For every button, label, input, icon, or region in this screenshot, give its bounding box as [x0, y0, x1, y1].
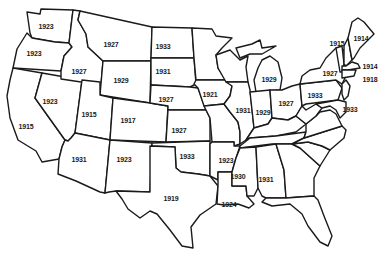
year-label-massachusetts: 1914: [362, 63, 377, 70]
year-label-nevada: 1923: [42, 98, 57, 105]
year-label-ohio: 1927: [278, 100, 293, 107]
year-label-washington: 1923: [38, 23, 53, 30]
state-michigan-upper: [236, 40, 276, 58]
year-label-new-mexico: 1923: [116, 156, 131, 163]
year-label-utah: 1915: [81, 111, 96, 118]
state-new-mexico: [105, 140, 152, 193]
year-label-illinois: 1931: [235, 107, 250, 114]
year-label-michigan: 1929: [261, 76, 276, 83]
year-label-maryland: 1933: [342, 106, 357, 113]
year-label-indiana: 1929: [255, 109, 270, 116]
year-label-new-york: 1927: [322, 70, 337, 77]
year-label-oklahoma: 1933: [179, 153, 194, 160]
year-label-arkansas: 1923: [218, 157, 233, 164]
year-label-texas: 1919: [163, 195, 178, 202]
year-label-louisiana: 1924: [221, 201, 236, 208]
year-label-north-dakota: 1933: [155, 43, 170, 50]
year-label-alabama: 1931: [258, 176, 273, 183]
year-label-idaho: 1927: [71, 68, 86, 75]
state-florida: [262, 196, 332, 246]
year-label-arizona: 1931: [71, 156, 86, 163]
state-outlines: [0, 0, 382, 258]
year-label-nebraska: 1927: [158, 96, 173, 103]
year-label-south-dakota: 1931: [155, 68, 170, 75]
year-label-montana: 1927: [103, 41, 118, 48]
state-connecticut-ri: [342, 70, 356, 78]
state-arizona: [58, 133, 110, 193]
year-label-mississippi: 1930: [230, 173, 245, 180]
year-label-kansas: 1927: [171, 127, 186, 134]
state-michigan: [254, 56, 282, 92]
year-label-iowa: 1921: [202, 91, 217, 98]
year-label-california: 1915: [18, 123, 33, 130]
year-label-oregon: 1923: [26, 50, 41, 57]
state-new-jersey: [342, 80, 350, 100]
year-label-vermont: 1915: [329, 40, 344, 47]
year-label-pennsylvania: 1933: [307, 92, 322, 99]
us-map: 1923192319151923192719271929191519171931…: [0, 0, 382, 258]
year-label-wyoming: 1929: [113, 77, 128, 84]
year-label-connecticut: 1918: [362, 76, 377, 83]
year-label-colorado: 1917: [120, 117, 135, 124]
year-label-maine: 1914: [353, 35, 368, 42]
